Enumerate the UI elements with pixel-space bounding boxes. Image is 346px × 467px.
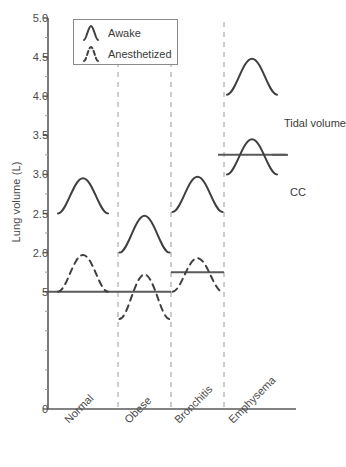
curve-anesthetized-bronchitis bbox=[173, 258, 223, 292]
annotation-cc: CC bbox=[290, 186, 306, 198]
curve-anesthetized-emphysema bbox=[227, 139, 277, 174]
y-tick-label: 3.5 bbox=[18, 129, 48, 141]
y-tick-label: 4.0 bbox=[18, 90, 48, 102]
legend: AwakeAnesthetized bbox=[73, 19, 178, 65]
y-tick-label: 2.0 bbox=[18, 247, 48, 259]
y-tick-label: 4.5 bbox=[18, 51, 48, 63]
curve-awake-emphysema bbox=[227, 59, 277, 95]
curve-anesthetized-normal bbox=[58, 255, 108, 292]
curve-awake-obese bbox=[120, 216, 170, 253]
legend-label: Awake bbox=[108, 27, 141, 39]
legend-glyph-path bbox=[84, 26, 98, 40]
y-tick-label: 3.0 bbox=[18, 168, 48, 180]
annotation-tidal-volume: Tidal volume bbox=[284, 117, 346, 129]
y-tick-label: 2.5 bbox=[18, 208, 48, 220]
curve-awake-bronchitis bbox=[173, 177, 223, 212]
legend-curve-icon bbox=[80, 44, 104, 64]
legend-glyph-path bbox=[84, 47, 98, 61]
y-tick-label: 5.0 bbox=[18, 12, 48, 24]
curve-anesthetized-obese bbox=[120, 274, 170, 319]
curve-awake-normal bbox=[58, 178, 108, 213]
y-axis-ticks: 5.04.54.03.53.02.52.050 bbox=[18, 0, 48, 467]
y-tick-label: 0 bbox=[18, 403, 48, 415]
legend-curve-icon bbox=[80, 23, 104, 43]
legend-label: Anesthetized bbox=[108, 48, 172, 60]
y-tick-label: 5 bbox=[18, 286, 48, 298]
